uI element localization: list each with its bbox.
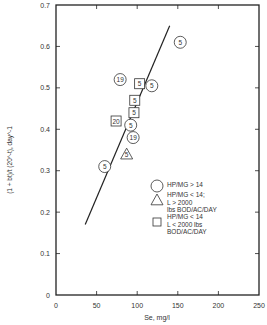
y-tick-label: 0.7 [40, 2, 50, 9]
point-label: 20 [112, 118, 120, 125]
data-point [151, 194, 163, 205]
point-label: 5 [125, 151, 129, 158]
point-label: 5 [150, 82, 154, 89]
data-point [151, 180, 163, 192]
data-point: 19 [114, 74, 126, 86]
legend-label: HP/MG < 14; [167, 191, 205, 198]
y-tick-label: 0.2 [40, 209, 50, 216]
plot-frame [56, 5, 259, 295]
axis-ticks: 05010015020025000.10.20.30.40.50.60.7 [40, 2, 265, 310]
data-point: 5 [125, 119, 137, 131]
legend-label: HP/MG > 14 [167, 181, 203, 188]
data-point: 5 [130, 95, 140, 105]
data-point: 5 [99, 161, 111, 173]
point-label: 5 [138, 80, 142, 87]
plot-border [56, 5, 259, 295]
x-tick-label: 0 [54, 302, 58, 309]
legend-label: L > 2000 [167, 199, 193, 206]
point-label: 5 [103, 163, 107, 170]
svg-text:(1 + bt)/t (20^-t), day^-1: (1 + bt)/t (20^-t), day^-1 [6, 126, 14, 194]
legend: HP/MG > 14HP/MG < 14;L > 2000lbs BOD/AC/… [151, 180, 217, 235]
data-point: 5 [146, 80, 158, 92]
point-label: 5 [129, 122, 133, 129]
data-point: 20 [111, 116, 121, 126]
point-label: 5 [132, 109, 136, 116]
x-tick-label: 100 [131, 302, 143, 309]
chart: 05010015020025000.10.20.30.40.50.60.7 51… [0, 0, 267, 325]
x-tick-label: 150 [172, 302, 184, 309]
circle-marker [151, 180, 163, 192]
data-point: 5 [129, 108, 139, 118]
legend-label: BOD/AC/DAY [167, 228, 207, 235]
data-point: 5 [174, 36, 186, 48]
legend-label: HP/MG < 14 [167, 213, 203, 220]
y-tick-label: 0.4 [40, 126, 50, 133]
x-tick-label: 200 [213, 302, 225, 309]
legend-label: L < 2000 lbs [167, 221, 203, 228]
x-tick-label: 250 [253, 302, 265, 309]
y-tick-label: 0.5 [40, 84, 50, 91]
y-tick-label: 0.3 [40, 167, 50, 174]
y-tick-label: 0.1 [40, 250, 50, 257]
x-axis-label: Se, mg/l [144, 314, 170, 322]
data-point: 5 [121, 148, 133, 159]
point-label: 19 [130, 134, 138, 141]
data-point: 5 [135, 79, 145, 89]
point-label: 19 [117, 76, 125, 83]
y-axis-label: (1 + bt)/t (20^-t), day^-1 [6, 126, 14, 194]
legend-label: lbs BOD/AC/DAY [167, 206, 217, 213]
data-point [153, 218, 161, 226]
x-tick-label: 50 [93, 302, 101, 309]
y-tick-label: 0.6 [40, 43, 50, 50]
y-tick-label: 0 [46, 292, 50, 299]
point-label: 5 [178, 39, 182, 46]
square-marker [153, 218, 161, 226]
data-points: 51955195555520 [99, 36, 187, 172]
triangle-marker [151, 194, 163, 205]
point-label: 5 [133, 97, 137, 104]
data-point: 19 [127, 132, 139, 144]
